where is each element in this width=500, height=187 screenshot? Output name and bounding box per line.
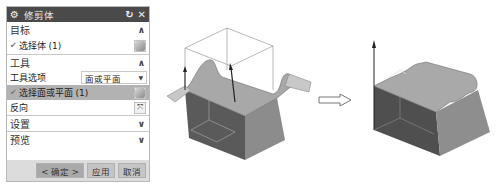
dialog-title: 修剪体 [24, 8, 121, 22]
select-body-button[interactable] [134, 40, 146, 52]
section-target-label: 目标 [10, 22, 30, 37]
section-preview: 预览 ∨ [7, 132, 149, 147]
tool-option-row: 工具选项 面或平面 ▼ [7, 70, 149, 85]
solid-body-icon [135, 41, 145, 51]
reverse-label: 反向 [10, 101, 134, 114]
section-settings-label: 设置 [10, 116, 30, 131]
chevron-down-icon[interactable]: ∨ [138, 135, 145, 145]
reverse-direction-button[interactable]: ⤧ [134, 102, 146, 114]
section-target: 目标 ∧ ✔ 选择体 (1) [7, 22, 149, 55]
reset-icon[interactable]: ↻ [125, 9, 133, 20]
chevron-down-icon[interactable]: ∨ [138, 119, 145, 129]
section-preview-label: 预览 [10, 132, 30, 147]
check-icon: ✔ [10, 88, 17, 97]
chevron-up-icon[interactable]: ∧ [138, 25, 145, 35]
close-icon[interactable]: ✕ [138, 9, 146, 20]
before-model-view [165, 20, 315, 180]
tool-surface [285, 74, 311, 92]
right-arrow-icon [318, 93, 352, 107]
section-tool-header[interactable]: 工具 ∧ [7, 55, 149, 70]
trim-body-dialog: ⚙ 修剪体 ↻ ✕ 目标 ∧ ✔ 选择体 (1) 工具 ∧ 工具选项 面或平面 … [6, 6, 150, 182]
apply-button[interactable]: 应用 [87, 163, 115, 178]
tool-option-select[interactable]: 面或平面 ▼ [81, 71, 147, 84]
dialog-titlebar: ⚙ 修剪体 ↻ ✕ [7, 7, 149, 22]
section-tool-label: 工具 [10, 55, 30, 70]
dialog-footer: < 确定 > 应用 取消 [7, 160, 149, 181]
section-preview-header[interactable]: 预览 ∨ [7, 132, 149, 147]
select-face-row[interactable]: ✔ 选择面或平面 (1) [7, 85, 149, 100]
gear-icon: ⚙ [10, 9, 21, 20]
dropdown-caret-icon: ▼ [138, 74, 143, 81]
tool-option-value: 面或平面 [85, 72, 121, 84]
section-tool: 工具 ∧ 工具选项 面或平面 ▼ ✔ 选择面或平面 (1) 反向 ⤧ [7, 55, 149, 116]
select-face-button[interactable] [134, 87, 146, 99]
reverse-row: 反向 ⤧ [7, 100, 149, 115]
select-body-row[interactable]: ✔ 选择体 (1) [7, 37, 149, 54]
check-icon: ✔ [10, 41, 17, 50]
select-face-label: 选择面或平面 (1) [19, 86, 134, 99]
reverse-direction-icon: ⤧ [137, 103, 143, 113]
section-target-header[interactable]: 目标 ∧ [7, 22, 149, 37]
section-settings-header[interactable]: 设置 ∨ [7, 116, 149, 131]
face-icon [135, 88, 145, 98]
ok-button[interactable]: < 确定 > [36, 163, 84, 178]
cancel-button[interactable]: 取消 [118, 163, 146, 178]
after-model-view [360, 30, 500, 160]
chevron-up-icon[interactable]: ∧ [138, 58, 145, 68]
section-settings: 设置 ∨ [7, 116, 149, 132]
select-body-label: 选择体 (1) [19, 39, 134, 52]
